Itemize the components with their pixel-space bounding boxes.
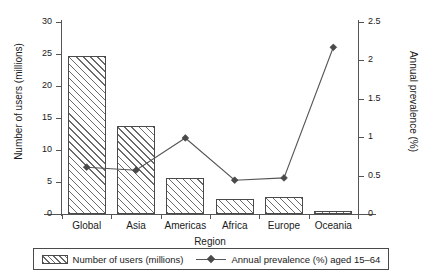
y-axis-right-tick-label: 2.5 [368, 17, 408, 26]
legend-item-line: Annual prevalence (%) aged 15–64 [196, 254, 380, 265]
line-marker-global [83, 164, 90, 171]
legend-item-bars: Number of users (millions) [42, 254, 184, 265]
y-axis-left-tick-label: 25 [0, 49, 52, 58]
y-axis-left-tick-label: 15 [0, 113, 52, 122]
y-axis-right-line [358, 20, 359, 216]
line-marker-asia [133, 167, 140, 174]
y-axis-left-title: Number of users (millions) [13, 7, 24, 197]
chart-legend: Number of users (millions) Annual preval… [33, 248, 389, 270]
y-axis-left-tick-label: 10 [0, 145, 52, 154]
x-axis-tick [111, 214, 112, 219]
y-axis-left-tick-label: 5 [0, 177, 52, 186]
y-axis-right-tick [358, 22, 364, 23]
legend-label-bars: Number of users (millions) [73, 254, 184, 265]
y-axis-left-tick-label: 0 [0, 209, 52, 218]
y-axis-right-tick-label: 1.5 [368, 94, 408, 103]
y-axis-right-tick-label: 0 [368, 209, 408, 218]
x-axis-tick [358, 214, 359, 219]
x-axis-tick [259, 214, 260, 219]
x-axis-title: Region [44, 236, 376, 247]
line-series [62, 22, 358, 214]
x-axis-category-label: Africa [210, 220, 259, 231]
y-axis-right-tick-label: 2 [368, 55, 408, 64]
x-axis-category-label: Americas [161, 220, 210, 231]
x-axis-category-label: Europe [259, 220, 308, 231]
line-diamond-icon [196, 255, 226, 264]
x-axis-category-label: Asia [111, 220, 160, 231]
line-marker-europe [281, 175, 288, 182]
y-axis-right-tick [358, 176, 364, 177]
y-axis-right-title: Annual prevalence (%) [408, 7, 419, 197]
x-axis-tick [161, 214, 162, 219]
x-axis-tick [210, 214, 211, 219]
plot-area [62, 22, 358, 214]
chart-figure: Number of users (millions) Annual preval… [0, 0, 422, 277]
hatched-swatch-icon [42, 255, 68, 264]
y-axis-right-tick-label: 1 [368, 132, 408, 141]
line-marker-oceania [330, 44, 337, 51]
y-axis-right-tick [358, 137, 364, 138]
legend-label-line: Annual prevalence (%) aged 15–64 [231, 254, 380, 265]
x-axis-tick [62, 214, 63, 219]
x-axis-category-label: Global [62, 220, 111, 231]
y-axis-left-tick-label: 30 [0, 17, 52, 26]
y-axis-right-tick [358, 99, 364, 100]
y-axis-right-tick [358, 60, 364, 61]
x-axis-tick [309, 214, 310, 219]
y-axis-right-tick-label: 0.5 [368, 171, 408, 180]
x-axis-category-label: Oceania [309, 220, 358, 231]
y-axis-left-tick-label: 20 [0, 81, 52, 90]
